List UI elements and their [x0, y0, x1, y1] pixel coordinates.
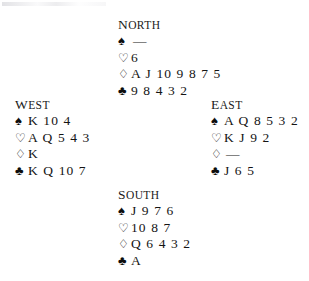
diamond-icon: ♢	[118, 66, 131, 83]
north-hearts-row: ♡6	[118, 50, 221, 67]
scan-artifact	[2, 2, 106, 6]
north-clubs-ranks: 9 8 4 3 2	[131, 83, 188, 100]
spade-icon: ♠	[118, 33, 131, 50]
south-spades-row: ♠J 9 7 6	[118, 203, 191, 220]
club-icon: ♣	[15, 163, 28, 180]
hand-north: NORTH ♠— ♡6 ♢A J 10 9 8 7 5 ♣9 8 4 3 2	[118, 17, 221, 99]
south-hearts-row: ♡10 8 7	[118, 220, 191, 237]
seat-label-west-initial: W	[15, 97, 28, 112]
west-hearts-ranks: A Q 5 4 3	[28, 130, 90, 147]
west-hearts-row: ♡A Q 5 4 3	[15, 130, 90, 147]
seat-label-north-rest: ORTH	[128, 19, 160, 31]
west-clubs-ranks: K Q 10 7	[28, 163, 87, 180]
north-diamonds-row: ♢A J 10 9 8 7 5	[118, 66, 221, 83]
east-clubs-row: ♣J 6 5	[211, 163, 299, 180]
seat-label-north: NORTH	[118, 17, 221, 33]
club-icon: ♣	[211, 163, 224, 180]
club-icon: ♣	[118, 253, 131, 270]
bridge-hand-diagram: NORTH ♠— ♡6 ♢A J 10 9 8 7 5 ♣9 8 4 3 2 W…	[0, 0, 309, 281]
seat-label-west: WEST	[15, 97, 90, 113]
west-clubs-row: ♣K Q 10 7	[15, 163, 90, 180]
hand-south: SOUTH ♠J 9 7 6 ♡10 8 7 ♢Q 6 4 3 2 ♣A	[118, 187, 191, 269]
diamond-icon: ♢	[118, 236, 131, 253]
east-diamonds-row: ♢—	[211, 146, 299, 163]
south-clubs-row: ♣A	[118, 253, 191, 270]
west-spades-ranks: K 10 4	[28, 113, 71, 130]
south-diamonds-ranks: Q 6 4 3 2	[131, 236, 191, 253]
south-hearts-ranks: 10 8 7	[131, 220, 171, 237]
north-clubs-row: ♣9 8 4 3 2	[118, 83, 221, 100]
north-hearts-ranks: 6	[131, 50, 139, 67]
heart-icon: ♡	[211, 130, 224, 147]
hand-east: EAST ♠A Q 8 5 3 2 ♡K J 9 2 ♢— ♣J 6 5	[211, 97, 299, 179]
heart-icon: ♡	[15, 130, 28, 147]
seat-label-south-rest: OUTH	[126, 189, 160, 201]
south-spades-ranks: J 9 7 6	[131, 203, 174, 220]
south-diamonds-row: ♢Q 6 4 3 2	[118, 236, 191, 253]
north-spades-row: ♠—	[118, 33, 221, 50]
east-clubs-ranks: J 6 5	[224, 163, 255, 180]
west-spades-row: ♠K 10 4	[15, 113, 90, 130]
heart-icon: ♡	[118, 220, 131, 237]
seat-label-north-initial: N	[118, 17, 128, 32]
east-hearts-row: ♡K J 9 2	[211, 130, 299, 147]
seat-label-east-rest: AST	[220, 99, 243, 111]
seat-label-west-rest: EST	[28, 99, 50, 111]
seat-label-east-initial: E	[211, 97, 220, 112]
club-icon: ♣	[118, 83, 131, 100]
seat-label-south: SOUTH	[118, 187, 191, 203]
diamond-icon: ♢	[211, 146, 224, 163]
east-spades-ranks: A Q 8 5 3 2	[224, 113, 299, 130]
north-diamonds-ranks: A J 10 9 8 7 5	[131, 66, 221, 83]
seat-label-south-initial: S	[118, 187, 126, 202]
seat-label-east: EAST	[211, 97, 299, 113]
spade-icon: ♠	[118, 203, 131, 220]
spade-icon: ♠	[15, 113, 28, 130]
west-diamonds-row: ♢K	[15, 146, 90, 163]
north-spades-ranks: —	[131, 33, 147, 50]
south-clubs-ranks: A	[131, 253, 142, 270]
east-diamonds-ranks: —	[224, 146, 240, 163]
east-spades-row: ♠A Q 8 5 3 2	[211, 113, 299, 130]
heart-icon: ♡	[118, 50, 131, 67]
diamond-icon: ♢	[15, 146, 28, 163]
spade-icon: ♠	[211, 113, 224, 130]
west-diamonds-ranks: K	[28, 146, 39, 163]
hand-west: WEST ♠K 10 4 ♡A Q 5 4 3 ♢K ♣K Q 10 7	[15, 97, 90, 179]
east-hearts-ranks: K J 9 2	[224, 130, 270, 147]
